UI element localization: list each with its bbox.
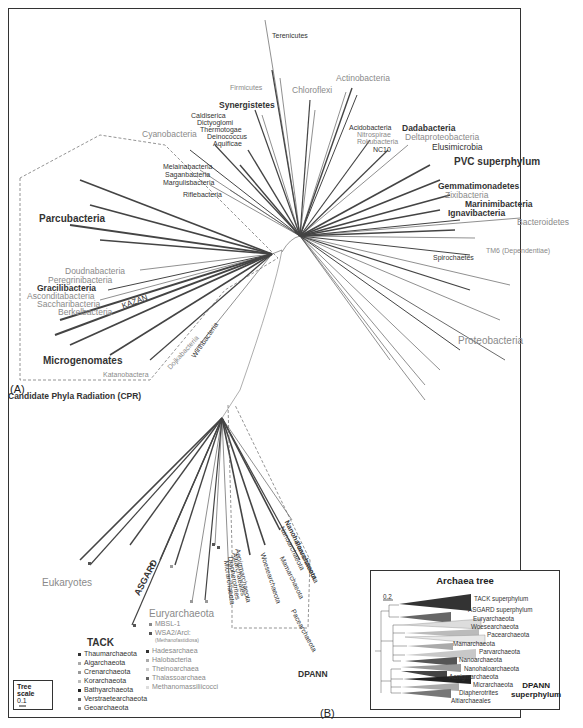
list-item: Geoarchaeota <box>78 703 147 712</box>
list-item: Hadesarchaea <box>146 646 218 655</box>
label-ignavibacteria: Ignavibacteria <box>448 209 505 218</box>
clade-mamarchaeota: Mamarchaeota <box>453 640 495 647</box>
tree-scale-title: Tree scale <box>17 683 49 697</box>
label-terenicutes: Terenicutes <box>272 32 308 40</box>
list-item: Thaumarchaeota <box>78 649 147 658</box>
label-eukaryotes: Eukaryotes <box>42 577 92 588</box>
list-item: Halobacteria <box>146 655 218 664</box>
label-firmicutes: Firmicutes <box>230 84 262 92</box>
list-item: Korarchaeota <box>78 676 147 685</box>
label-parcubacteria: Parcubacteria <box>39 213 105 224</box>
label-pvc-superphylum: PVC superphylum <box>454 156 540 167</box>
label-bacteroidetes: Bacteroidetes <box>517 218 569 227</box>
list-item: Thalassoarchaea <box>146 673 218 682</box>
tack-list: TACK Thaumarchaeota Aigarchaeota Crenarc… <box>78 637 147 712</box>
list-item: Verstraetearchaeota <box>78 694 147 703</box>
label-katanobactera: Katanobactera <box>103 371 149 379</box>
label-cyanobacteria: Cyanobacteria <box>142 130 197 139</box>
list-item-note: (Methanofastidiosa) <box>149 637 214 643</box>
clade-woesearchaeota: Woesearchaeota <box>471 623 519 630</box>
clade-altiarchaeales: Altiarchaeales <box>451 697 491 704</box>
cpr-title: Candidate Phyla Radiation (CPR) <box>8 392 141 401</box>
list-item: Bathyarchaeota <box>78 685 147 694</box>
label-aquificae: Aquificae <box>213 140 242 148</box>
euryarchaeota-list: Euryarchaeota MBSL-1 WSA2/Arcl: (Methano… <box>149 608 214 643</box>
clade-diapherotrites: Diapherotrites <box>459 689 498 696</box>
label-proteobacteria: Proteobacteria <box>458 335 523 346</box>
label-elusimicrobia: Elusimicrobia <box>432 143 483 152</box>
list-item: Methanomassiliicocci <box>146 682 218 691</box>
dpann-title: DPANN <box>298 670 328 679</box>
label-riflebacteria: Riflebacteria <box>183 191 222 199</box>
list-item: Theinoarchaea <box>146 664 218 673</box>
label-berkelbacteria: Berkelbacteria <box>58 308 112 317</box>
list-item: Aigarchaeota <box>78 658 147 667</box>
label-nc10: NC10 <box>373 146 391 154</box>
label-spirochaetes: Spirochaetes <box>433 254 474 262</box>
clade-nanohaloarchaeota: Nanohaloarchaeota <box>464 665 519 672</box>
label-synergistetes: Synergistetes <box>219 101 275 110</box>
tack-title: TACK <box>78 637 147 649</box>
clade-micrarchaeota: Micrarchaeota <box>473 681 513 688</box>
label-tm6: TM6 (Dependentiae) <box>486 247 550 255</box>
tree-scale-legend: Tree scale 0.1 <box>13 680 53 710</box>
label-actinobacteria: Actinobacteria <box>336 74 390 83</box>
euryarchaeota-title: Euryarchaeota <box>149 608 214 619</box>
list-item: MBSL-1 <box>149 619 214 628</box>
list-item: WSA2/Arcl: <box>149 628 214 637</box>
dpann-superphylum-label: DPANN superphylum <box>511 681 561 699</box>
label-rokubacteria: Rokubacteria <box>357 138 398 146</box>
euryarchaeota-list-2: Hadesarchaea Halobacteria Theinoarchaea … <box>146 646 218 691</box>
panel-label-b: (B) <box>320 707 335 719</box>
clade-aenigmarchaeota: Aenigmarchaeota <box>449 673 498 680</box>
label-microgenomates: Microgenomates <box>43 355 122 366</box>
archaea-tree-inset: Archaea tree 0.2 TACK superphylum ASGARD… <box>370 570 560 710</box>
clade-parvarchaeota: Parvarchaeota <box>479 648 520 655</box>
clade-nanoarchaeota: Nanoarchaeota <box>459 656 502 663</box>
label-deltaproteobacteria: Deltaproteobacteria <box>405 133 479 142</box>
list-item: Crenarchaeota <box>78 667 147 676</box>
tree-scale-value: 0.1 <box>17 697 49 704</box>
label-margulisbacteria: Margulisbacteria <box>163 179 214 187</box>
clade-pacearchaeota: Pacearchaeota <box>487 631 529 638</box>
clade-tack: TACK superphylum <box>474 595 528 602</box>
clade-asgard: ASGARD superphylum <box>468 606 532 613</box>
label-chloroflexi: Chloroflexi <box>292 86 332 95</box>
label-saganbacteria: Saganbacteria <box>165 171 210 179</box>
clade-euryarchaeota: Euryarchaeota <box>473 615 514 622</box>
label-melainabacteria: Melainabacteria <box>163 163 212 171</box>
